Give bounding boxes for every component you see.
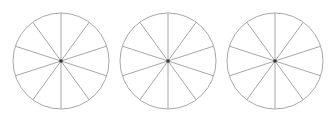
spoke-line [229, 46, 275, 61]
spoke-line [275, 61, 321, 76]
spoke-line [122, 61, 168, 76]
spoke-line [140, 61, 168, 100]
spoke-line [61, 22, 89, 61]
circle-2 [120, 13, 216, 109]
spoke-line [140, 22, 168, 61]
spoke-line [33, 22, 61, 61]
spoke-line [61, 61, 89, 100]
spoke-line [275, 61, 303, 100]
spoke-line [247, 61, 275, 100]
spoke-line [247, 22, 275, 61]
spoke-line [33, 61, 61, 100]
spoke-line [61, 46, 107, 61]
spoke-line [168, 61, 214, 76]
spoke-line [61, 61, 107, 76]
circle-1 [13, 13, 109, 109]
spoke-line [168, 61, 196, 100]
spoke-line [15, 61, 61, 76]
spoke-line [15, 46, 61, 61]
center-dot [167, 60, 170, 63]
center-dot [60, 60, 63, 63]
spoke-line [229, 61, 275, 76]
spoke-line [275, 22, 303, 61]
circle-diagram [0, 0, 332, 139]
spoke-line [122, 46, 168, 61]
center-dot [274, 60, 277, 63]
spoke-line [275, 46, 321, 61]
spoke-line [168, 46, 214, 61]
circle-3 [227, 13, 323, 109]
spoke-line [168, 22, 196, 61]
